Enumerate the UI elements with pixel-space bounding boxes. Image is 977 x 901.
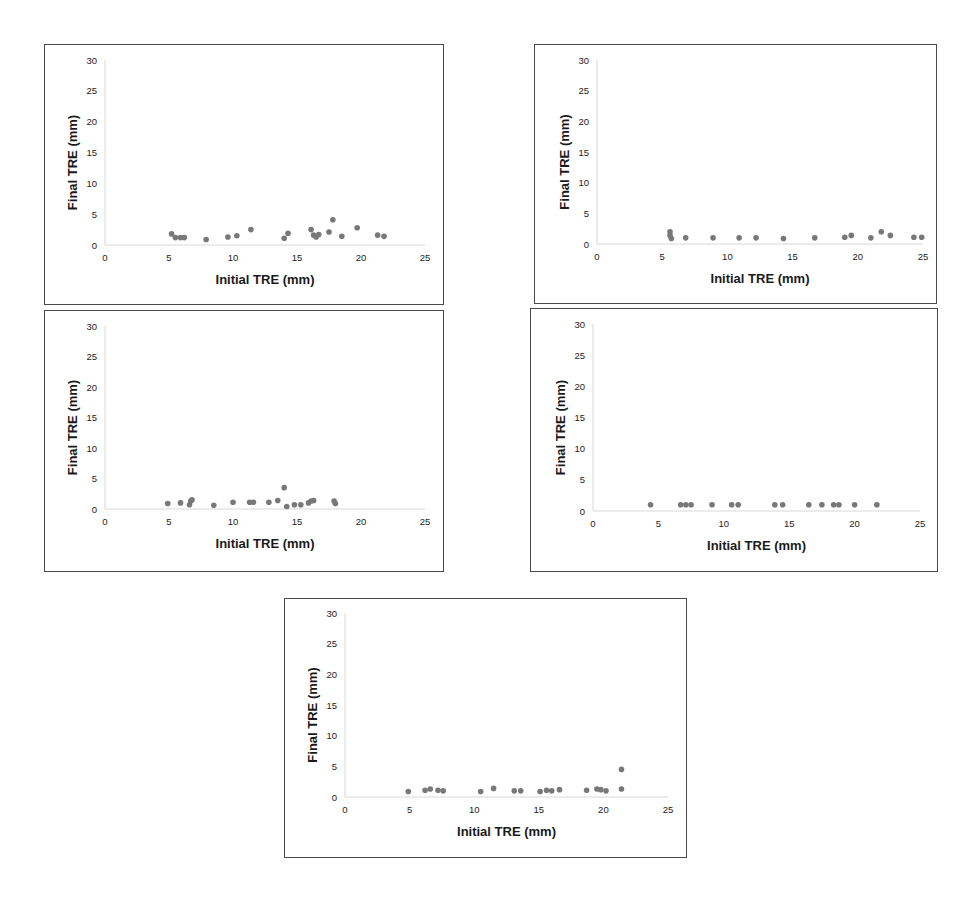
y-tick-label: 5 <box>92 209 97 220</box>
x-tick-label: 20 <box>849 518 860 529</box>
data-point <box>308 227 314 233</box>
x-tick-label: 0 <box>342 804 347 815</box>
y-tick-label: 5 <box>92 473 97 484</box>
data-point <box>781 236 787 242</box>
y-tick-label: 10 <box>326 730 337 741</box>
data-point <box>230 499 236 505</box>
data-point <box>911 234 917 240</box>
y-tick-label: 10 <box>86 443 97 454</box>
x-tick-label: 0 <box>102 252 107 263</box>
y-axis-title: Final TRE (mm) <box>553 380 568 475</box>
y-tick-label: 30 <box>86 321 97 332</box>
data-point <box>203 237 209 243</box>
scatter-panel-top-left: 0510152025300510152025Initial TRE (mm)Fi… <box>44 44 444 305</box>
data-point <box>557 787 563 793</box>
data-point <box>874 502 880 508</box>
x-tick-label: 5 <box>166 516 171 527</box>
data-point <box>584 787 590 793</box>
data-point <box>248 227 254 233</box>
data-point <box>735 502 741 508</box>
data-point <box>729 502 735 508</box>
scatter-plot: 0510152025300510152025Initial TRE (mm)Fi… <box>285 599 686 857</box>
y-tick-label: 30 <box>574 319 585 330</box>
data-point <box>780 502 786 508</box>
data-point <box>831 502 837 508</box>
data-point <box>339 234 345 240</box>
scatter-panel-bottom-center: 0510152025300510152025Initial TRE (mm)Fi… <box>284 598 687 858</box>
data-point <box>478 789 484 795</box>
x-tick-label: 0 <box>594 251 599 262</box>
data-point <box>281 485 287 491</box>
data-point <box>619 767 625 773</box>
y-tick-label: 25 <box>326 638 337 649</box>
data-point <box>266 499 272 505</box>
data-point <box>354 225 360 231</box>
data-point <box>549 788 555 794</box>
y-axis-title: Final TRE (mm) <box>65 380 80 475</box>
x-tick-label: 25 <box>918 251 929 262</box>
y-tick-label: 25 <box>86 85 97 96</box>
scatter-plot: 0510152025300510152025Initial TRE (mm)Fi… <box>531 309 937 571</box>
data-point <box>688 502 694 508</box>
y-tick-label: 5 <box>332 761 337 772</box>
data-point <box>333 501 339 507</box>
y-tick-label: 15 <box>86 412 97 423</box>
data-point <box>812 235 818 241</box>
data-point <box>772 502 778 508</box>
x-tick-label: 25 <box>420 252 431 263</box>
y-tick-label: 25 <box>578 85 589 96</box>
data-point <box>619 786 625 792</box>
x-tick-label: 20 <box>356 516 367 527</box>
data-point <box>868 235 874 241</box>
data-point <box>422 787 428 793</box>
data-point <box>285 230 291 236</box>
y-tick-label: 15 <box>578 147 589 158</box>
x-tick-label: 10 <box>719 518 730 529</box>
y-tick-label: 15 <box>86 147 97 158</box>
y-tick-label: 0 <box>92 240 97 251</box>
data-point <box>683 502 689 508</box>
y-tick-label: 10 <box>578 177 589 188</box>
x-tick-label: 20 <box>598 804 609 815</box>
x-tick-label: 25 <box>420 516 431 527</box>
data-point <box>544 787 550 793</box>
data-point <box>435 787 441 793</box>
scatter-panel-middle-right: 0510152025300510152025Initial TRE (mm)Fi… <box>530 308 938 572</box>
y-tick-label: 0 <box>332 792 337 803</box>
data-point <box>806 502 812 508</box>
scatter-plot: 0510152025300510152025Initial TRE (mm)Fi… <box>45 311 443 571</box>
data-point <box>275 498 281 504</box>
x-tick-label: 20 <box>356 252 367 263</box>
data-point <box>182 235 188 241</box>
data-point <box>381 234 387 240</box>
data-point <box>298 502 304 508</box>
x-axis-title: Initial TRE (mm) <box>707 538 806 553</box>
data-point <box>842 234 848 240</box>
x-tick-label: 0 <box>590 518 595 529</box>
data-point <box>330 217 336 223</box>
data-point <box>603 788 609 794</box>
y-axis-title: Final TRE (mm) <box>557 114 572 209</box>
data-point <box>165 501 171 507</box>
y-tick-label: 5 <box>580 474 585 485</box>
data-point <box>427 786 433 792</box>
data-point <box>888 233 894 239</box>
data-point <box>669 236 675 242</box>
y-tick-label: 30 <box>578 55 589 66</box>
scatter-panel-middle-left: 0510152025300510152025Initial TRE (mm)Fi… <box>44 310 444 572</box>
x-tick-label: 10 <box>228 252 239 263</box>
x-tick-label: 15 <box>784 518 795 529</box>
data-point <box>537 789 543 795</box>
data-point <box>178 500 184 506</box>
x-axis-title: Initial TRE (mm) <box>216 272 315 287</box>
data-point <box>598 787 604 793</box>
data-point <box>518 788 524 794</box>
x-tick-label: 25 <box>915 518 926 529</box>
x-tick-label: 10 <box>469 804 480 815</box>
data-point <box>710 235 716 241</box>
x-tick-label: 5 <box>166 252 171 263</box>
x-axis-title: Initial TRE (mm) <box>457 824 556 839</box>
data-point <box>836 502 842 508</box>
data-point <box>491 786 497 792</box>
data-point <box>848 233 854 239</box>
